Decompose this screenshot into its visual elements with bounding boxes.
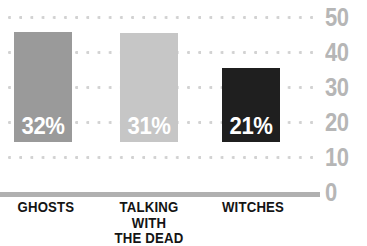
bar-value-ghosts: 32% — [16, 114, 69, 138]
y-axis-tick-40: 40 — [325, 40, 360, 65]
category-label-ghosts-line1: GHOSTS — [17, 199, 68, 215]
category-label-witches-line1: WITCHES — [222, 199, 280, 215]
baseline-axis — [0, 192, 320, 197]
gridline-10 — [8, 156, 320, 159]
bar-ghosts[interactable]: 32% — [14, 32, 72, 142]
y-axis-tick-10: 10 — [325, 145, 360, 170]
y-axis-tick-50: 50 — [325, 5, 360, 30]
bar-witches[interactable]: 21% — [222, 68, 280, 142]
plot-area: 32% 31% 21% — [0, 0, 320, 196]
y-axis-tick-20: 20 — [325, 110, 360, 135]
y-axis-tick-30: 30 — [325, 75, 360, 100]
bar-value-witches: 21% — [224, 114, 277, 138]
bar-chart: 32% 31% 21% 50 40 30 20 10 0 GHOSTS TALK… — [0, 0, 367, 246]
category-label-talking-with-the-dead-line2: THE DEAD — [110, 230, 187, 246]
category-label-talking-with-the-dead: TALKING WITH THE DEAD — [110, 199, 187, 246]
bar-talking-with-the-dead[interactable]: 31% — [120, 33, 178, 142]
category-label-talking-with-the-dead-line1: TALKING WITH — [110, 199, 187, 230]
category-label-witches: WITCHES — [222, 199, 280, 215]
y-axis-tick-0: 0 — [325, 180, 360, 205]
bar-value-talking-with-the-dead: 31% — [122, 114, 175, 138]
category-label-ghosts: GHOSTS — [17, 199, 68, 215]
gridline-50 — [8, 16, 320, 19]
